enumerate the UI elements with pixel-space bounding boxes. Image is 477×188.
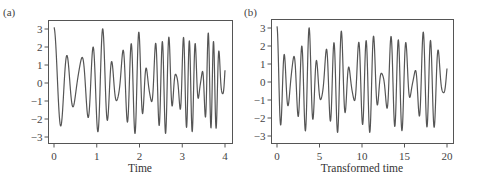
y-tick-label: −2 bbox=[31, 113, 43, 125]
x-tick-label: 15 bbox=[399, 150, 411, 162]
x-tick-label: 0 bbox=[51, 150, 57, 162]
figure: (a) 3210−1−2−3 01234 Time (b) 3210−1−2−3… bbox=[0, 0, 477, 188]
x-tick-label: 4 bbox=[222, 150, 228, 162]
y-tick-label: −1 bbox=[31, 95, 43, 107]
panel-b-y-axis: 3210−1−2−3 bbox=[254, 22, 272, 142]
x-tick-label: 3 bbox=[180, 150, 186, 162]
panel-b-x-axis: 05101520 bbox=[274, 144, 453, 162]
panel-b: (b) 3210−1−2−3 05101520 Transformed time bbox=[244, 6, 454, 174]
x-tick-label: 10 bbox=[357, 150, 369, 162]
panel-b-signal-trace bbox=[277, 26, 447, 132]
panel-a-y-axis: 3210−1−2−3 bbox=[31, 23, 49, 143]
y-tick-label: 3 bbox=[260, 22, 266, 34]
y-tick-label: −2 bbox=[254, 112, 266, 124]
y-tick-label: −3 bbox=[254, 130, 266, 142]
y-tick-label: 0 bbox=[37, 77, 43, 89]
y-tick-label: 1 bbox=[260, 58, 266, 70]
panel-a-x-axis: 01234 bbox=[51, 144, 228, 162]
x-tick-label: 0 bbox=[274, 150, 280, 162]
x-tick-label: 5 bbox=[317, 150, 323, 162]
y-tick-label: 1 bbox=[37, 59, 43, 71]
x-tick-label: 2 bbox=[137, 150, 143, 162]
panel-a-signal-trace bbox=[54, 27, 225, 133]
y-tick-label: 3 bbox=[37, 23, 43, 35]
panel-a: (a) 3210−1−2−3 01234 Time bbox=[3, 6, 233, 174]
y-tick-label: −1 bbox=[254, 94, 266, 106]
y-tick-label: −3 bbox=[31, 131, 43, 143]
y-tick-label: 0 bbox=[260, 76, 266, 88]
x-tick-label: 20 bbox=[442, 150, 454, 162]
panel-b-x-axis-label: Transformed time bbox=[321, 162, 403, 174]
panel-b-label: (b) bbox=[244, 6, 257, 19]
y-tick-label: 2 bbox=[37, 41, 43, 53]
panel-a-label: (a) bbox=[3, 6, 16, 19]
y-tick-label: 2 bbox=[260, 40, 266, 52]
x-tick-label: 1 bbox=[94, 150, 100, 162]
panel-a-x-axis-label: Time bbox=[128, 162, 152, 174]
